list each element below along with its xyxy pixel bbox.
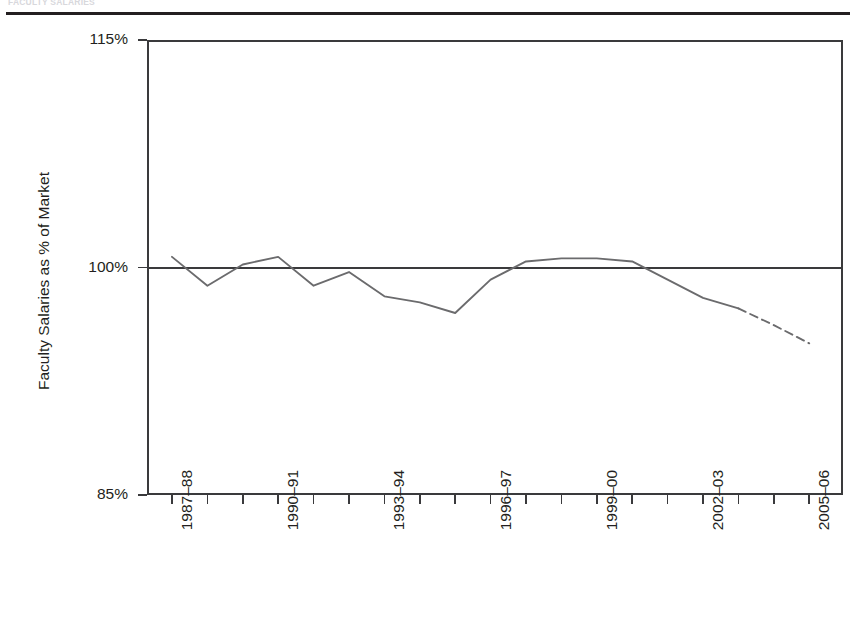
y-tick-label: 100% xyxy=(88,258,128,276)
x-tick-label-1996-97: 1996–97 xyxy=(497,470,515,530)
series-path-actual xyxy=(172,257,738,313)
plot-area: 115%100%85% xyxy=(147,40,843,495)
series-path-projected xyxy=(738,308,809,343)
series-lines xyxy=(147,40,843,495)
x-tick-label-1999-00: 1999–00 xyxy=(603,470,621,530)
y-tick-85pct: 85% xyxy=(138,494,147,496)
figure-container: FACULTY SALARIES Faculty Salaries as % o… xyxy=(0,0,856,630)
x-tick-label-2005-06: 2005–06 xyxy=(815,470,833,530)
caption-fragment: FACULTY SALARIES xyxy=(8,0,95,5)
y-tick-label: 85% xyxy=(97,485,128,503)
x-tick-label-1993-94: 1993–94 xyxy=(390,470,408,530)
top-divider-rule xyxy=(6,12,850,15)
x-tick-label-1987-88: 1987–88 xyxy=(178,470,196,530)
x-tick-label-2002-03: 2002–03 xyxy=(709,470,727,530)
y-tick-label: 115% xyxy=(90,30,129,48)
x-tick-label-1990-91: 1990–91 xyxy=(284,470,302,530)
y-tick-100pct: 100% xyxy=(138,267,147,269)
y-tick-115pct: 115% xyxy=(138,39,147,41)
y-axis-title: Faculty Salaries as % of Market xyxy=(35,116,53,446)
